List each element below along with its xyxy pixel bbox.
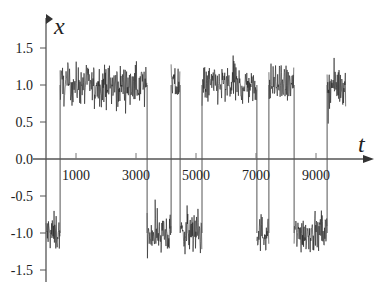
x-tick-label: 9000 [302,168,330,183]
x-axis-label: t [358,131,366,157]
x-tick-label: 1000 [62,168,90,183]
y-tick-label: 1.5 [16,41,34,56]
x-tick-label: 5000 [182,168,210,183]
y-tick-label: -1.5 [11,263,33,278]
y-tick-label: 0.5 [16,115,34,130]
y-tick-label: -1.0 [11,226,33,241]
x-tick-label: 3000 [122,168,150,183]
bistable-time-series-chart: 1.51.00.50.0-0.5-1.0-1.5 100030005000700… [0,0,390,296]
x-axis-ticks: 10003000500070009000 [62,153,330,183]
y-axis-arrow-icon [46,14,53,24]
y-axis-label: x [53,13,65,39]
y-tick-label: 0.0 [16,152,34,167]
x-tick-label: 7000 [242,168,270,183]
y-tick-label: -0.5 [11,189,33,204]
y-tick-label: 1.0 [16,78,34,93]
